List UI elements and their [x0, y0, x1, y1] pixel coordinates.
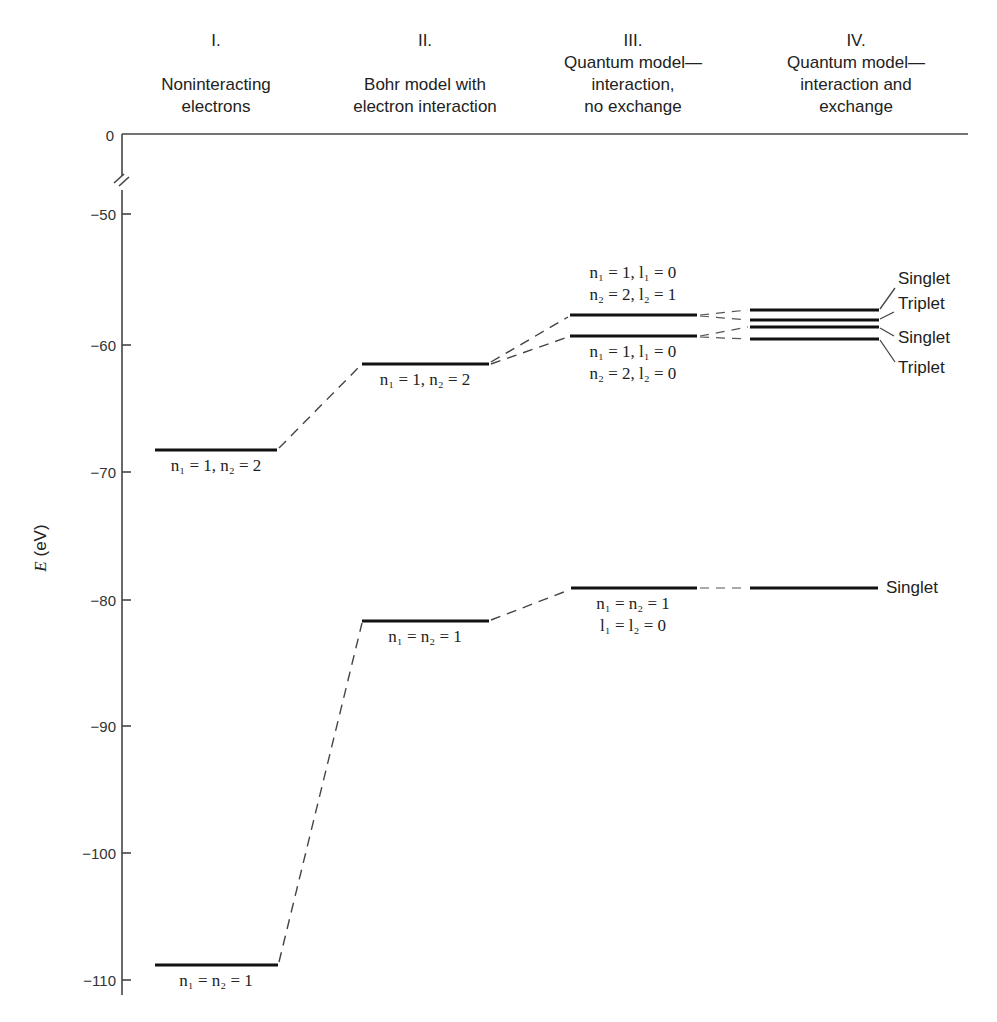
- leader-line: [880, 288, 895, 309]
- label-line: n₁ = n₂ = 1: [345, 626, 505, 648]
- label-I-ground: n₁ = n₂ = 1: [136, 970, 296, 992]
- tick-label-minus110: −110: [56, 972, 116, 989]
- label-line: n₁ = n₂ = 1: [136, 970, 296, 992]
- energy-level-diagram: [0, 0, 997, 1022]
- label-line: l₁ = l₂ = 0: [553, 615, 713, 637]
- spin-label-leaders: [880, 288, 895, 362]
- connector-III-IV-4: [700, 337, 748, 339]
- tick-label-minus80: −80: [56, 592, 116, 609]
- spin-label-singlet-2: Singlet: [898, 328, 950, 348]
- label-line: n₂ = 2, l₂ = 1: [553, 284, 713, 306]
- leader-line: [880, 312, 894, 319]
- label-III-lower: n₁ = 1, l₁ = 0 n₂ = 2, l₂ = 0: [553, 341, 713, 385]
- spin-label-singlet-1: Singlet: [898, 269, 950, 289]
- label-line: n₁ = n₂ = 1: [553, 593, 713, 615]
- spin-label-triplet-2: Triplet: [898, 358, 945, 378]
- spin-label-triplet-1: Triplet: [898, 294, 945, 314]
- label-line: n₂ = 2, l₂ = 0: [553, 363, 713, 385]
- label-III-ground: n₁ = n₂ = 1 l₁ = l₂ = 0: [553, 593, 713, 637]
- tick-label-minus70: −70: [56, 464, 116, 481]
- energy-levels: [155, 310, 879, 965]
- y-axis-title: E (eV): [31, 513, 51, 583]
- axes: [114, 134, 968, 995]
- tick-label-minus90: −90: [56, 718, 116, 735]
- connector-III-IV-2: [700, 316, 748, 320]
- tick-label-minus50: −50: [56, 206, 116, 223]
- label-line: n₁ = 1, l₁ = 0: [553, 341, 713, 363]
- tick-label-minus60: −60: [56, 337, 116, 354]
- label-II-excited: n₁ = 1, n₂ = 2: [345, 369, 505, 391]
- label-line: n₁ = 1, l₁ = 0: [553, 262, 713, 284]
- axis-break-mark: [119, 177, 129, 186]
- label-line: n₁ = 1, n₂ = 2: [136, 455, 296, 477]
- tick-label-minus100: −100: [56, 845, 116, 862]
- spin-label-ground-singlet: Singlet: [886, 578, 938, 598]
- connector-III-IV-3: [700, 327, 748, 336]
- y-axis-unit: (eV): [31, 524, 50, 556]
- label-II-ground: n₁ = n₂ = 1: [345, 626, 505, 648]
- axis-break-mark: [114, 174, 124, 183]
- leader-line: [880, 328, 894, 336]
- y-axis-var: E: [31, 561, 50, 571]
- label-III-upper: n₁ = 1, l₁ = 0 n₂ = 2, l₂ = 1: [553, 262, 713, 306]
- label-I-excited: n₁ = 1, n₂ = 2: [136, 455, 296, 477]
- leader-line: [880, 340, 895, 362]
- tick-label-0: 0: [54, 127, 114, 144]
- connector-III-IV-1: [700, 310, 748, 315]
- connector-I-II-ground: [279, 623, 362, 962]
- label-line: n₁ = 1, n₂ = 2: [345, 369, 505, 391]
